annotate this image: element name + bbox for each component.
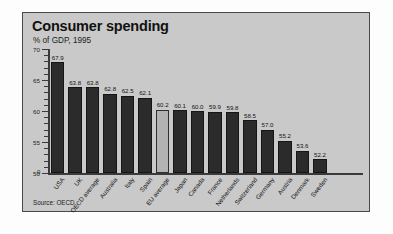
bar-value-label: 63.8 bbox=[87, 79, 99, 86]
bar-value-label: 59.8 bbox=[227, 104, 239, 111]
bar[interactable] bbox=[313, 159, 326, 173]
bar[interactable] bbox=[86, 87, 99, 173]
y-tick-minor bbox=[44, 86, 48, 87]
bar[interactable] bbox=[226, 112, 239, 173]
bar-value-label: 63.8 bbox=[69, 79, 81, 86]
y-tick-minor bbox=[44, 105, 48, 106]
y-tick-major bbox=[42, 80, 48, 81]
chart-page: Consumer spending % of GDP, 1995 5055606… bbox=[0, 0, 393, 234]
y-tick-minor bbox=[44, 68, 48, 69]
y-tick-minor bbox=[44, 167, 48, 168]
y-tick-major bbox=[42, 49, 48, 50]
bar-column[interactable]: 60.2 bbox=[156, 49, 169, 173]
bar-column[interactable]: 62.5 bbox=[121, 49, 134, 173]
bar[interactable] bbox=[156, 110, 169, 173]
y-tick-label: 65 bbox=[33, 77, 40, 84]
bar-column[interactable]: 53.6 bbox=[296, 49, 309, 173]
bar-value-label: 62.5 bbox=[122, 87, 134, 94]
bar[interactable] bbox=[261, 130, 274, 173]
bar-column[interactable]: 60.1 bbox=[173, 49, 186, 173]
y-tick-minor bbox=[44, 148, 48, 149]
bar-value-label: 52.2 bbox=[314, 151, 326, 158]
y-tick-major bbox=[42, 142, 48, 143]
bar-value-label: 55.2 bbox=[279, 132, 291, 139]
y-tick-minor bbox=[44, 161, 48, 162]
bar-column[interactable]: 62.1 bbox=[138, 49, 151, 173]
bar[interactable] bbox=[296, 151, 309, 173]
y-tick-label: 55 bbox=[33, 139, 40, 146]
y-tick-label: 60 bbox=[33, 108, 40, 115]
axis-break-label: 0 bbox=[37, 169, 40, 175]
y-tick-minor bbox=[44, 154, 48, 155]
bar-value-label: 53.6 bbox=[297, 142, 309, 149]
bar-value-label: 59.9 bbox=[209, 103, 221, 110]
bar-column[interactable]: 62.8 bbox=[103, 49, 116, 173]
bar-group: 67.963.863.862.862.562.160.260.160.059.9… bbox=[51, 49, 363, 173]
x-axis-baseline bbox=[48, 173, 363, 175]
plot-area: 5055606570 67.963.863.862.862.562.160.26… bbox=[33, 49, 363, 173]
x-axis-labels: USAUKOECD averageAustraliaItalySpainEU a… bbox=[51, 176, 381, 221]
y-tick-minor bbox=[44, 123, 48, 124]
bar[interactable] bbox=[173, 110, 186, 173]
bar-column[interactable]: 63.8 bbox=[68, 49, 81, 173]
bar-value-label: 62.8 bbox=[104, 85, 116, 92]
chart-title: Consumer spending bbox=[32, 18, 169, 34]
bar[interactable] bbox=[68, 87, 81, 173]
bar-column[interactable]: 60.0 bbox=[191, 49, 204, 173]
bar-column[interactable]: 52.2 bbox=[313, 49, 326, 173]
bar[interactable] bbox=[138, 98, 151, 173]
bar-value-label: 67.9 bbox=[52, 54, 64, 61]
bar-column[interactable]: 63.8 bbox=[86, 49, 99, 173]
bar-value-label: 57.0 bbox=[262, 121, 274, 128]
bar[interactable] bbox=[243, 120, 256, 173]
chart-subtitle: % of GDP, 1995 bbox=[33, 36, 91, 45]
x-axis-label: Sweden bbox=[308, 176, 328, 198]
bar-column[interactable]: 55.2 bbox=[278, 49, 291, 173]
y-tick-minor bbox=[44, 55, 48, 56]
y-tick-minor bbox=[44, 61, 48, 62]
y-tick-major bbox=[42, 111, 48, 112]
bar-value-label: 60.2 bbox=[157, 101, 169, 108]
x-axis-label: Japan bbox=[172, 176, 188, 194]
y-axis bbox=[48, 49, 50, 173]
y-tick-minor bbox=[44, 74, 48, 75]
x-axis-label: Spain bbox=[138, 176, 153, 193]
bar[interactable] bbox=[278, 141, 291, 173]
y-tick-minor bbox=[44, 92, 48, 93]
bar[interactable] bbox=[208, 112, 221, 173]
bar-value-label: 58.5 bbox=[244, 112, 256, 119]
bar[interactable] bbox=[121, 96, 134, 174]
bar[interactable] bbox=[191, 111, 204, 173]
x-axis-label: UK bbox=[72, 176, 83, 187]
y-tick-minor bbox=[44, 117, 48, 118]
bar-column[interactable]: 59.9 bbox=[208, 49, 221, 173]
x-axis-label: Canada bbox=[186, 176, 205, 198]
bar-value-label: 60.1 bbox=[174, 102, 186, 109]
y-tick-minor bbox=[44, 99, 48, 100]
bar-value-label: 62.1 bbox=[139, 89, 151, 96]
y-tick-minor bbox=[44, 136, 48, 137]
bar-value-label: 60.0 bbox=[192, 103, 204, 110]
x-axis-label: USA bbox=[52, 176, 65, 191]
y-tick-label: 70 bbox=[33, 46, 40, 53]
x-axis-label: Italy bbox=[123, 176, 136, 189]
y-tick-minor bbox=[44, 130, 48, 131]
bar[interactable] bbox=[51, 62, 64, 173]
bar-column[interactable]: 59.8 bbox=[226, 49, 239, 173]
bar-column[interactable]: 67.9 bbox=[51, 49, 64, 173]
bar-column[interactable]: 57.0 bbox=[261, 49, 274, 173]
chart-panel: Consumer spending % of GDP, 1995 5055606… bbox=[22, 12, 370, 212]
bar[interactable] bbox=[103, 94, 116, 173]
source-note: Source: OECD bbox=[33, 199, 75, 206]
bar-column[interactable]: 58.5 bbox=[243, 49, 256, 173]
